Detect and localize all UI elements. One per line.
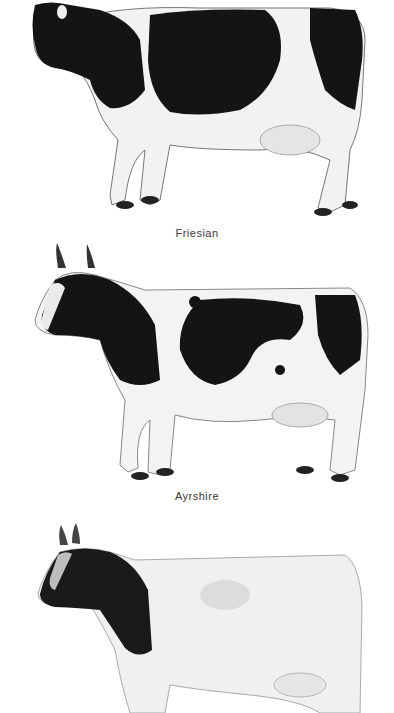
ayrshire-panel: Ayrshire <box>0 240 394 502</box>
belted-panel <box>0 510 394 713</box>
friesian-cow-illustration <box>0 0 394 225</box>
belted-cow-illustration <box>0 510 394 713</box>
friesian-panel: Friesian <box>0 0 394 240</box>
ayrshire-cow-illustration <box>0 240 394 485</box>
ayrshire-caption: Ayrshire <box>0 490 394 502</box>
friesian-caption: Friesian <box>0 227 394 239</box>
